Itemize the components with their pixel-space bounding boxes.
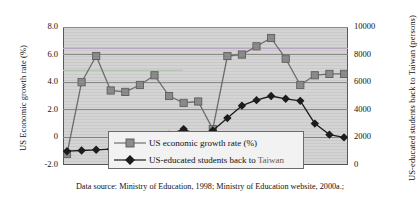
- y-tick-right: 10000: [354, 21, 375, 31]
- y-tick-right: 2000: [354, 131, 371, 141]
- y-axis-left-ticks: 8.06.04.02.00-2.0: [22, 0, 58, 210]
- y-tick-right: 8000: [354, 49, 371, 59]
- y-tick-left: 2.0: [22, 104, 58, 114]
- legend-square-marker-icon: [113, 136, 147, 150]
- legend-diamond-marker-icon: [113, 153, 147, 167]
- chart-legend: US economic growth rate (%) US-educated …: [108, 131, 304, 169]
- y-tick-left: 0: [22, 131, 58, 141]
- y-tick-left: -2.0: [22, 159, 58, 169]
- legend-item-growth-rate: US economic growth rate (%): [113, 134, 299, 151]
- y-tick-right: 4000: [354, 104, 371, 114]
- chart-figure: US Economic growth rate (%) US-educated …: [0, 0, 420, 210]
- legend-item-students: US-educated students back to Taiwan: [113, 151, 299, 168]
- y-axis-right-title: US-educated students back to Taiwan (per…: [407, 8, 417, 188]
- figure-caption: Data source: Ministry of Education, 1998…: [0, 182, 420, 191]
- legend-label-growth-rate: US economic growth rate (%): [147, 138, 257, 148]
- legend-label-students: US-educated students back to: [147, 155, 256, 165]
- y-tick-left: 8.0: [22, 21, 58, 31]
- y-tick-left: 4.0: [22, 76, 58, 86]
- y-tick-left: 6.0: [22, 49, 58, 59]
- y-tick-right: 0: [354, 159, 358, 169]
- legend-label-students-accent: Taiwan: [256, 155, 284, 165]
- y-tick-right: 6000: [354, 76, 371, 86]
- y-axis-right-ticks: 1000080006000400020000: [354, 0, 394, 210]
